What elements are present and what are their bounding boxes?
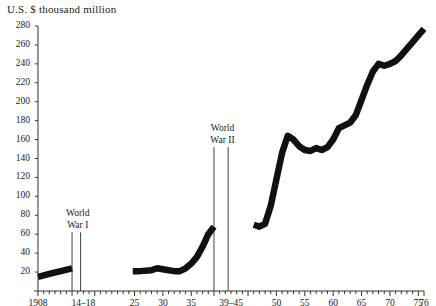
x-axis-tick-label: 30 — [158, 298, 168, 306]
x-axis-tick-label: 76 — [419, 298, 429, 306]
y-axis-tick-label: 100 — [2, 190, 30, 200]
x-axis-tick-label: 50 — [272, 298, 282, 306]
annotation-line-1: World — [210, 123, 234, 135]
y-axis-tick-label: 260 — [2, 39, 30, 49]
annotation-line-2: War II — [210, 135, 234, 147]
annotation-world-war-i: WorldWar I — [66, 208, 90, 231]
y-axis-tick-label: 140 — [2, 153, 30, 163]
y-axis-tick-label: 60 — [2, 228, 30, 238]
series-segment-pre-ww1 — [38, 268, 72, 277]
y-axis-tick-label: 20 — [2, 266, 30, 276]
series-segment-interwar — [133, 227, 214, 271]
y-axis-tick-label: 240 — [2, 58, 30, 68]
y-axis-tick-label: 220 — [2, 77, 30, 87]
x-axis-tick-label: 70 — [385, 298, 395, 306]
annotation-world-war-ii: WorldWar II — [210, 123, 234, 146]
x-axis-tick-label: 14–18 — [72, 298, 96, 306]
chart-plot-area — [0, 0, 436, 306]
y-axis-tick-label: 160 — [2, 134, 30, 144]
x-axis-tick-label: 35 — [187, 298, 197, 306]
y-axis-tick-label: 80 — [2, 209, 30, 219]
chart-series-layer — [38, 29, 424, 277]
y-axis-tick-label: 40 — [2, 247, 30, 257]
y-axis-tick-label: 280 — [2, 20, 30, 30]
x-axis-tick-label: 60 — [328, 298, 338, 306]
chart-container: U.S. $ thousand million 2040608010012014… — [0, 0, 436, 306]
x-axis-tick-label: 25 — [130, 298, 140, 306]
y-axis-tick-label: 180 — [2, 115, 30, 125]
y-axis-tick-label: 120 — [2, 171, 30, 181]
x-axis-tick-label: 65 — [357, 298, 367, 306]
chart-axes — [34, 26, 424, 296]
x-axis-tick-label: 39–45 — [219, 298, 243, 306]
annotation-line-2: War I — [66, 220, 90, 232]
x-axis-tick-label: 1908 — [29, 298, 48, 306]
x-axis-tick-label: 55 — [300, 298, 310, 306]
series-segment-postwar — [254, 29, 424, 227]
y-axis-tick-label: 200 — [2, 96, 30, 106]
annotation-line-1: World — [66, 208, 90, 220]
